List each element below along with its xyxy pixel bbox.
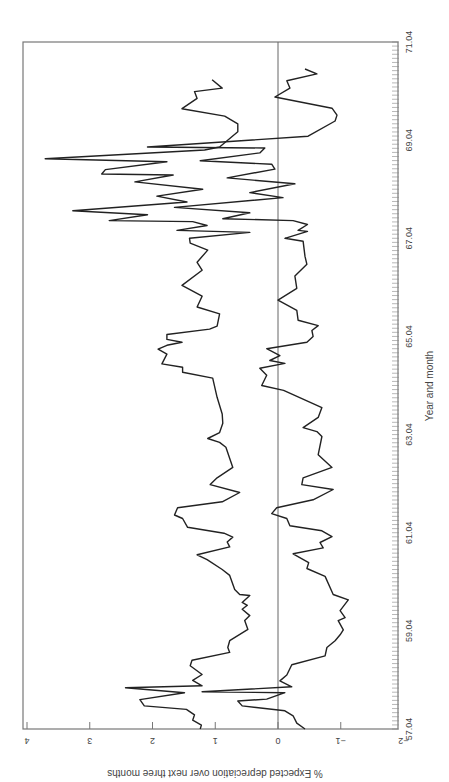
y-tick-label: 1 [213,736,218,746]
y-tick-labels: 43210−1−2 [24,736,408,746]
data-series [45,69,348,729]
y-tick-label: 4 [24,736,29,746]
x-tick-label: 71.04 [404,31,414,54]
y-tick-label: 0 [275,736,280,746]
x-tick-label: 67.04 [404,227,414,250]
upper-band-line [45,80,250,729]
x-tick-label: 69.04 [404,129,414,152]
x-tick-label: 61.04 [404,521,414,544]
x-tick-label: 59.04 [404,620,414,643]
x-tick-label: 63.04 [404,423,414,446]
y-tick-label: 3 [87,736,92,746]
x-tick-label: 65.04 [404,325,414,348]
y-tick-label: 2 [150,736,155,746]
y-tick-label: −2 [398,736,408,746]
line-chart: 57.0459.0461.0463.0465.0467.0469.0471.04… [0,0,449,782]
y-axis-label: % Expected depreciation over next three … [107,768,323,779]
x-tick-labels: 57.0459.0461.0463.0465.0467.0469.0471.04 [404,31,414,741]
y-tick-label: −1 [336,736,346,746]
x-axis-label: Year and month [424,351,435,421]
y-ticks [27,722,341,729]
